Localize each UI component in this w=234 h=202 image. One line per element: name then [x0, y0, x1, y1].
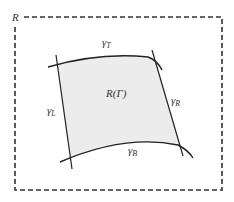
label-inner-region: R(Γ)	[105, 87, 127, 100]
label-gamma-top: γT	[102, 36, 111, 50]
inner-region-fill	[57, 56, 180, 157]
label-gamma-bottom: γB	[128, 144, 137, 158]
label-gamma-left: γL	[47, 104, 56, 118]
outer-region-label: R	[11, 11, 19, 23]
diagram-canvas: R γT R(Γ) γL γR γB	[0, 0, 234, 202]
label-gamma-right: γR	[171, 94, 180, 108]
